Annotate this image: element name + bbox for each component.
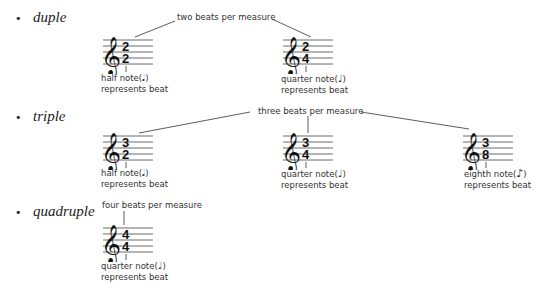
time-sig-bottom: 2 — [122, 147, 129, 162]
staff-3-4: 𝄞 3 4 — [281, 130, 337, 170]
meter-label-quadruple: quadruple — [33, 203, 95, 220]
time-sig-bottom: 4 — [302, 147, 310, 162]
bullet-triple: • — [15, 111, 22, 124]
staff-3-8: 𝄞 3 8 — [461, 130, 517, 170]
treble-clef-icon: 𝄞 — [101, 35, 121, 74]
staff-lines: 𝄞 3 8 — [461, 130, 517, 170]
staff-lines: 𝄞 2 2 — [101, 34, 157, 74]
meter-label-duple: duple — [33, 9, 66, 26]
treble-clef-icon: 𝄞 — [281, 35, 301, 74]
time-sig-bottom: 4 — [302, 51, 310, 66]
note-caption-2-4: quarter note(♩) represents beat — [281, 73, 348, 96]
time-sig-bottom: 4 — [122, 239, 130, 254]
bullet-quadruple: • — [15, 206, 22, 219]
staff-lines: 𝄞 4 4 — [101, 222, 157, 262]
treble-clef-icon: 𝄞 — [461, 131, 481, 170]
meter-label-triple: triple — [33, 108, 66, 125]
staff-lines: 𝄞 3 4 — [281, 130, 337, 170]
beats-caption-triple: three beats per measure — [258, 106, 363, 116]
staff-3-2: 𝄞 3 2 — [101, 130, 157, 170]
note-caption-3-2: half note(𝅗𝅥) represents beat — [101, 168, 168, 190]
treble-clef-icon: 𝄞 — [281, 131, 301, 170]
bullet-duple: • — [15, 12, 22, 25]
staff-2-4: 𝄞 2 4 — [281, 34, 337, 74]
time-sig-bottom: 2 — [122, 51, 129, 66]
staff-lines: 𝄞 3 2 — [101, 130, 157, 170]
treble-clef-icon: 𝄞 — [101, 223, 121, 262]
beats-caption-quadruple: four beats per measure — [102, 200, 202, 210]
time-sig-bottom: 8 — [482, 147, 489, 162]
staff-2-2: 𝄞 2 2 — [101, 34, 157, 74]
note-caption-3-4: quarter note(♩) represents beat — [281, 168, 348, 191]
staff-lines: 𝄞 2 4 — [281, 34, 337, 74]
note-caption-3-8: eighth note(♪) represents beat — [464, 168, 531, 191]
treble-clef-icon: 𝄞 — [101, 131, 121, 170]
beats-caption-duple: two beats per measure — [177, 12, 275, 22]
staff-4-4: 𝄞 4 4 — [101, 222, 157, 262]
note-caption-4-4: quarter note(♩) represents beat — [101, 260, 168, 283]
note-caption-2-2: half note(𝅗𝅥) represents beat — [101, 73, 168, 95]
